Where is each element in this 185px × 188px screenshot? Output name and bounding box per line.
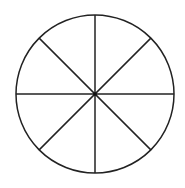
divided-circle-diagram xyxy=(0,0,185,188)
center-point xyxy=(93,92,97,96)
diagram-canvas xyxy=(0,0,185,188)
